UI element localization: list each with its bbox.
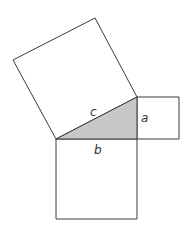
diagram-svg: c a b bbox=[0, 0, 188, 237]
pythagorean-diagram: c a b bbox=[0, 0, 188, 237]
label-a: a bbox=[141, 111, 148, 125]
label-b: b bbox=[94, 143, 102, 157]
label-c: c bbox=[90, 105, 97, 119]
